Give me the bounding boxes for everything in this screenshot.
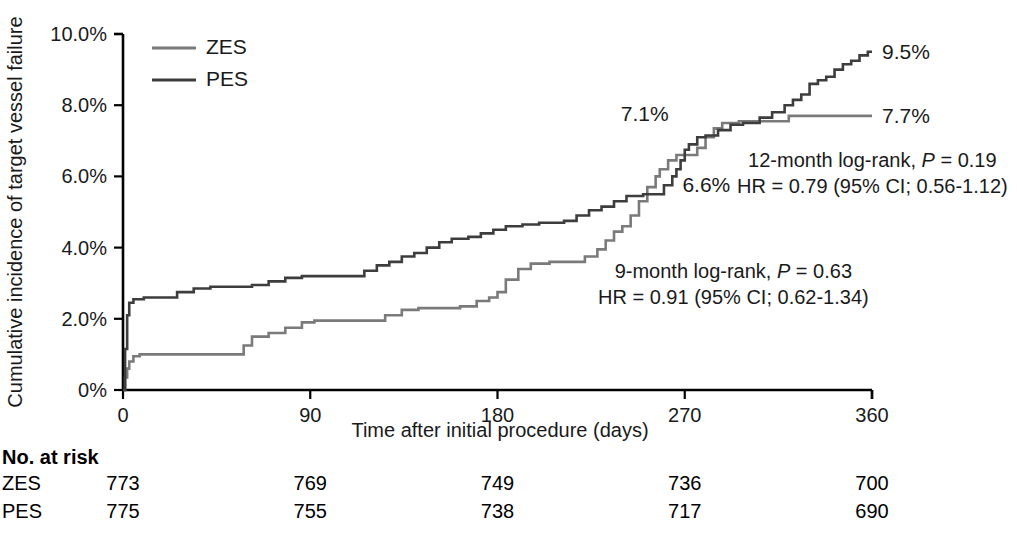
risk-cell: 773: [88, 472, 158, 495]
risk-cell: 775: [88, 500, 158, 523]
risk-row-zes-label: ZES: [2, 472, 41, 495]
annotation-9-month-line1: 9-month log-rank, P = 0.63: [598, 258, 869, 284]
y-tick-label: 2.0%: [61, 308, 107, 330]
annotation-12-month-line1-pre: 12-month log-rank,: [748, 149, 921, 171]
legend-label-pes: PES: [206, 67, 248, 90]
risk-cell: 700: [837, 472, 907, 495]
cumulative-incidence-chart: Cumulative incidence of target vessel fa…: [0, 0, 1017, 446]
annotation-9-month-line1-post: = 0.63: [790, 260, 852, 282]
annotation-9-month: 9-month log-rank, P = 0.63 HR = 0.91 (95…: [598, 258, 869, 310]
risk-cell: 736: [650, 472, 720, 495]
y-tick-label: 4.0%: [61, 237, 107, 259]
risk-cell: 769: [275, 472, 345, 495]
risk-cell: 717: [650, 500, 720, 523]
curve-label-pes-9month: 7.1%: [621, 102, 669, 125]
annotation-9-month-p-symbol: P: [777, 260, 790, 282]
risk-row-zes: ZES 773769749736700: [0, 472, 1017, 498]
x-tick-label: 90: [299, 404, 321, 426]
x-tick-label: 180: [481, 404, 514, 426]
risk-row-pes-label: PES: [2, 500, 42, 523]
annotation-12-month-line2: HR = 0.79 (95% CI; 0.56-1.12): [737, 173, 1008, 199]
y-tick-label: 6.0%: [61, 165, 107, 187]
x-tick-label: 360: [855, 404, 888, 426]
km-curve-pes: [123, 52, 872, 390]
annotation-12-month-line1-post: = 0.19: [935, 149, 997, 171]
curve-label-zes-9month: 6.6%: [682, 173, 730, 196]
y-tick-label: 0%: [78, 379, 107, 401]
legend-label-zes: ZES: [206, 35, 247, 58]
y-axis-title: Cumulative incidence of target vessel fa…: [4, 16, 26, 407]
annotation-9-month-line1-pre: 9-month log-rank,: [615, 260, 777, 282]
risk-row-pes: PES 775755738717690: [0, 500, 1017, 526]
x-tick-label: 270: [668, 404, 701, 426]
risk-cell: 690: [837, 500, 907, 523]
risk-cell: 749: [463, 472, 533, 495]
risk-cell: 738: [463, 500, 533, 523]
km-curves: [123, 52, 872, 390]
annotation-12-month-p-symbol: P: [922, 149, 935, 171]
endpoint-label-zes: 7.7%: [882, 104, 930, 127]
endpoint-label-pes: 9.5%: [882, 40, 930, 63]
x-axis-ticks: 090180270360: [117, 390, 888, 426]
annotation-12-month: 12-month log-rank, P = 0.19 HR = 0.79 (9…: [737, 147, 1008, 199]
x-tick-label: 0: [117, 404, 128, 426]
risk-cell: 755: [275, 500, 345, 523]
y-tick-label: 10.0%: [50, 23, 107, 45]
risk-table-title: No. at risk: [2, 446, 99, 469]
annotation-12-month-line1: 12-month log-rank, P = 0.19: [737, 147, 1008, 173]
y-tick-label: 8.0%: [61, 94, 107, 116]
kaplan-meier-figure: Cumulative incidence of target vessel fa…: [0, 0, 1017, 533]
annotation-9-month-line2: HR = 0.91 (95% CI; 0.62-1.34): [598, 284, 869, 310]
y-axis-ticks: 0%2.0%4.0%6.0%8.0%10.0%: [50, 23, 123, 401]
chart-legend: ZESPES: [152, 35, 248, 90]
